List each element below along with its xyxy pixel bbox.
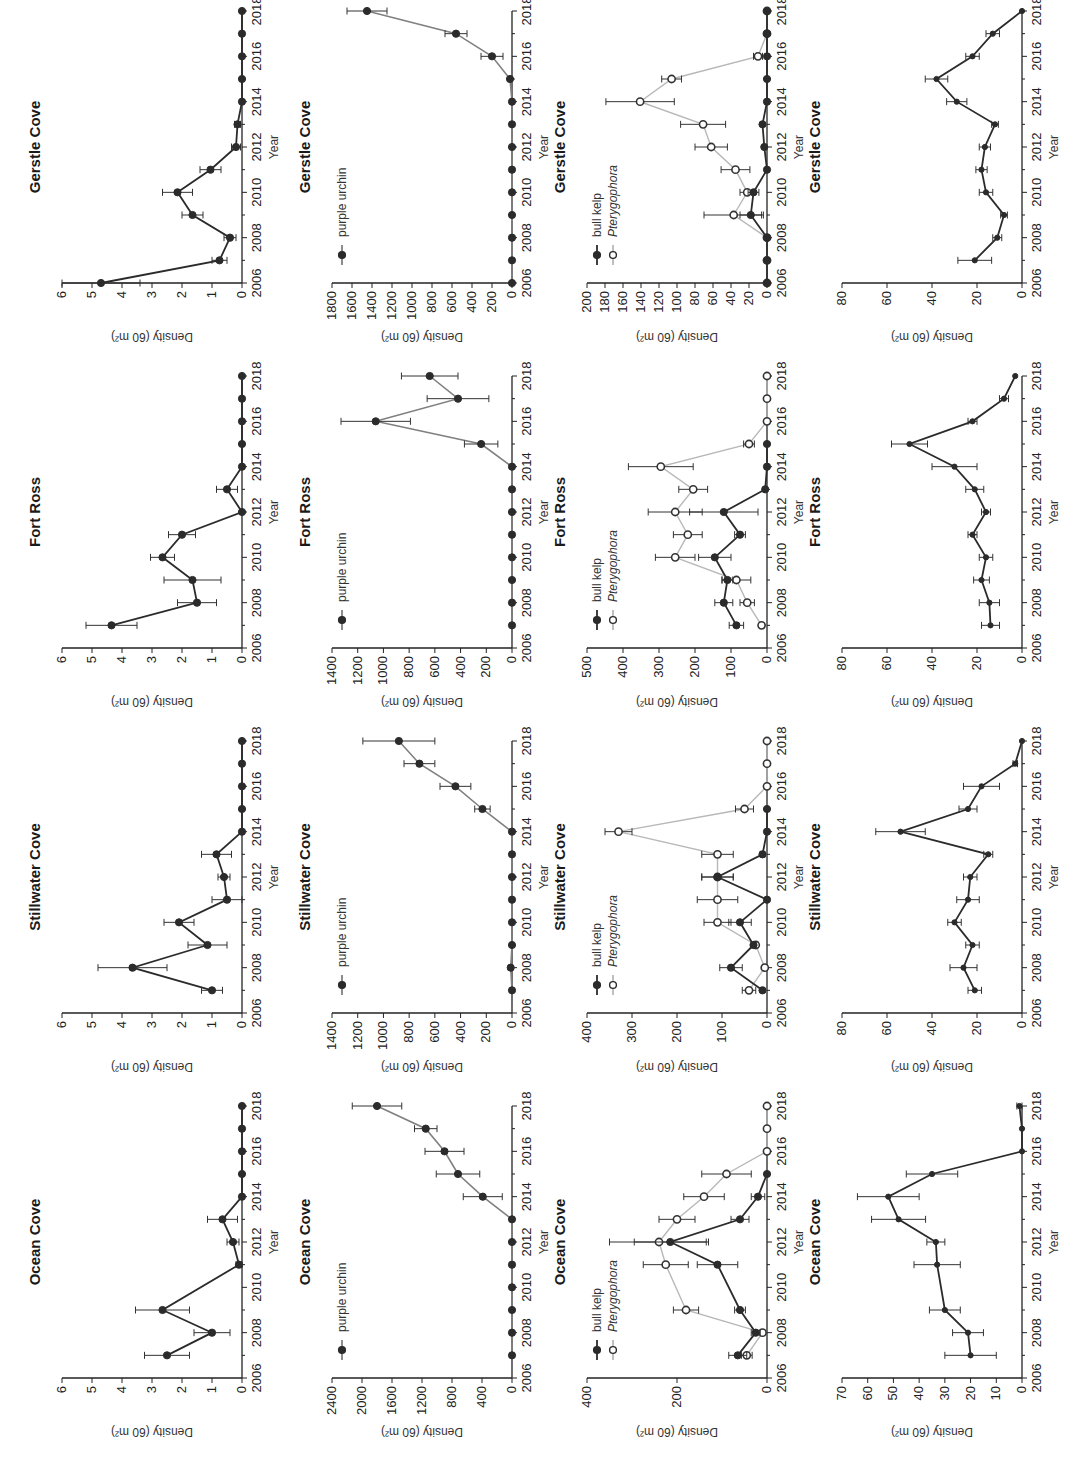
- data-point: [907, 441, 912, 446]
- data-point: [886, 1194, 891, 1199]
- data-point: [667, 1238, 674, 1245]
- data-point: [226, 234, 233, 241]
- data-point: [508, 211, 515, 218]
- x-axis-label: Year: [1047, 135, 1061, 159]
- x-axis-label: Year: [1047, 1230, 1061, 1254]
- x-tick-label: 2016: [249, 42, 264, 71]
- data-point: [935, 1262, 940, 1267]
- y-tick-label: 300: [624, 1021, 639, 1043]
- data-point: [416, 760, 423, 767]
- data-point: [238, 418, 245, 425]
- chart-panel-r2-ocean: Ocean Cove040080012001600200024002006200…: [290, 1096, 550, 1456]
- x-tick-label: 2010: [774, 178, 789, 207]
- y-tick-label: 60: [879, 1021, 894, 1035]
- chart-panel-r4-fort: Fort Ross0204060802006200820102012201420…: [800, 366, 1060, 726]
- x-tick-label: 2014: [249, 817, 264, 846]
- data-point: [968, 1353, 973, 1358]
- data-point: [208, 987, 215, 994]
- x-tick-label: 2018: [1029, 1092, 1044, 1121]
- data-point: [189, 211, 196, 218]
- data-point: [736, 1306, 743, 1313]
- data-point: [508, 279, 515, 286]
- data-point: [238, 1125, 245, 1132]
- data-point: [763, 234, 770, 241]
- data-point: [763, 1102, 770, 1109]
- data-point: [711, 554, 718, 561]
- chart-svg: Gerstle Cove0200400600800100012001400160…: [290, 1, 550, 361]
- y-tick-label: 1: [204, 291, 219, 298]
- data-point: [673, 1216, 680, 1223]
- y-tick-label: 1400: [364, 291, 379, 320]
- x-tick-label: 2010: [519, 543, 534, 572]
- chart-panel-r2-gerstle: Gerstle Cove0200400600800100012001400160…: [290, 1, 550, 361]
- x-tick-label: 2006: [249, 634, 264, 663]
- data-point: [508, 1306, 515, 1313]
- x-tick-label: 2014: [774, 817, 789, 846]
- x-tick-label: 2008: [1029, 1318, 1044, 1347]
- x-tick-label: 2018: [519, 1092, 534, 1121]
- y-tick-label: 200: [669, 1386, 684, 1408]
- x-tick-label: 2006: [774, 634, 789, 663]
- data-point: [129, 964, 136, 971]
- x-tick-label: 2010: [519, 908, 534, 937]
- data-point: [234, 121, 241, 128]
- x-tick-label: 2010: [249, 1273, 264, 1302]
- x-tick-label: 2016: [774, 407, 789, 436]
- panel-title: Gerstle Cove: [26, 101, 43, 194]
- x-tick-label: 2012: [774, 133, 789, 162]
- legend-label: purple urchin: [335, 898, 349, 967]
- y-tick-label: 1: [204, 1386, 219, 1393]
- y-tick-label: 500: [579, 656, 594, 678]
- data-point: [684, 531, 691, 538]
- data-point: [724, 576, 731, 583]
- y-tick-label: 1000: [404, 291, 419, 320]
- y-tick-label: 4: [114, 656, 129, 663]
- series-pterygophora: [605, 737, 771, 994]
- data-point: [763, 440, 770, 447]
- data-point: [1013, 761, 1018, 766]
- x-tick-label: 2010: [1029, 178, 1044, 207]
- data-point: [700, 1193, 707, 1200]
- y-tick-label: 80: [834, 1021, 849, 1035]
- data-point: [238, 98, 245, 105]
- x-tick-label: 2010: [1029, 1273, 1044, 1302]
- y-tick-label: 1000: [375, 1021, 390, 1050]
- data-point: [508, 919, 515, 926]
- panel-title: Ocean Cove: [806, 1199, 823, 1286]
- data-point: [508, 599, 515, 606]
- data-point: [1001, 396, 1006, 401]
- y-tick-label: 6: [54, 656, 69, 663]
- data-point: [454, 1170, 461, 1177]
- data-point: [508, 828, 515, 835]
- panel-title: Stillwater Cove: [26, 823, 43, 931]
- series-purple-urchin: [352, 1102, 515, 1359]
- y-tick-label: 1600: [384, 1386, 399, 1415]
- x-tick-label: 2014: [249, 87, 264, 116]
- x-tick-label: 2014: [519, 87, 534, 116]
- data-point: [990, 31, 995, 36]
- legend-item: Pterygophora: [606, 165, 620, 265]
- chart-svg: Ocean Cove020040020062008201020122014201…: [545, 1096, 805, 1456]
- data-point: [762, 486, 769, 493]
- x-tick-label: 2014: [519, 1182, 534, 1211]
- data-point: [972, 258, 977, 263]
- data-point: [736, 919, 743, 926]
- legend-label: Pterygophora: [606, 1260, 620, 1332]
- x-tick-label: 2018: [774, 362, 789, 391]
- data-point: [672, 508, 679, 515]
- data-point: [174, 189, 181, 196]
- y-axis-label: Density (60 m²): [891, 695, 973, 709]
- x-tick-label: 2016: [1029, 407, 1044, 436]
- y-tick-label: 400: [464, 291, 479, 313]
- y-axis-label: Density (60 m²): [111, 695, 193, 709]
- y-tick-label: 2000: [354, 1386, 369, 1415]
- y-tick-label: 0: [1014, 656, 1029, 663]
- data-point: [970, 54, 975, 59]
- x-tick-label: 2012: [774, 863, 789, 892]
- x-tick-label: 2008: [774, 223, 789, 252]
- panel-title: Stillwater Cove: [296, 823, 313, 931]
- panel-title: Ocean Cove: [26, 1199, 43, 1286]
- y-tick-label: 80: [687, 291, 702, 305]
- y-tick-label: 2: [174, 291, 189, 298]
- data-point: [213, 851, 220, 858]
